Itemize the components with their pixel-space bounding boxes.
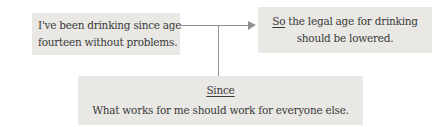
warrant-body: What works for me should work for everyo… <box>92 102 349 119</box>
premise-line-2: fourteen without problems. <box>38 34 177 51</box>
warrant-to-arrow-line <box>218 26 219 76</box>
conclusion-box: So the legal age for drinking should be … <box>258 7 432 53</box>
conclusion-line-1-rest: the legal age for drinking <box>285 15 418 27</box>
conclusion-line-2: should be lowered. <box>297 30 394 47</box>
argument-diagram: I've been drinking since age fourteen wi… <box>0 0 446 127</box>
warrant-box: Since What works for me should work for … <box>78 76 363 125</box>
premise-box: I've been drinking since age fourteen wi… <box>32 13 180 55</box>
conclusion-indicator-word: So <box>272 15 285 27</box>
arrow-right-icon <box>248 21 256 30</box>
premise-line-1: I've been drinking since age <box>38 17 181 34</box>
premise-to-conclusion-line <box>180 25 249 26</box>
conclusion-line-1: So the legal age for drinking <box>272 13 418 30</box>
warrant-heading: Since <box>206 82 234 99</box>
